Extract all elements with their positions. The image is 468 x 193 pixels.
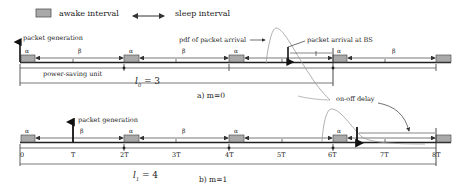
awake-box xyxy=(21,135,35,142)
caption-b: b) m=1 xyxy=(199,176,227,184)
beta-label: β xyxy=(80,128,83,134)
caption-a: a) m=0 xyxy=(197,92,225,100)
tick-label: 3T xyxy=(172,152,180,159)
awake-box xyxy=(229,135,244,142)
arrival-label: packet arrival at BS xyxy=(307,37,373,44)
on-off-delay-label: on-off delay xyxy=(336,96,375,103)
tick-label: 6T xyxy=(328,152,336,159)
beta-label: β xyxy=(182,128,185,134)
tick-label: 5T xyxy=(277,152,285,159)
alpha-label: α xyxy=(25,48,29,54)
awake-box xyxy=(436,135,451,142)
tick-label: 4T xyxy=(225,152,233,159)
length-label-a: l0 = 3 xyxy=(135,77,160,88)
packet-generation-label-b: packet generation xyxy=(78,117,138,124)
beta-label: β xyxy=(182,48,185,54)
power-saving-unit-label: power-saving unit xyxy=(43,71,102,78)
tick-label: T xyxy=(71,152,75,159)
alpha-label: α xyxy=(129,48,133,54)
alpha-label: α xyxy=(234,48,238,54)
awake-legend-label: awake interval xyxy=(59,10,119,18)
power-saving-diagram xyxy=(0,0,468,193)
alpha-label: α xyxy=(337,128,341,134)
awake-box xyxy=(333,135,347,142)
awake-box xyxy=(229,55,244,62)
tick-label: 8T xyxy=(432,152,440,159)
awake-box xyxy=(124,55,139,62)
awake-legend-swatch xyxy=(36,9,51,17)
awake-box xyxy=(333,55,347,62)
awake-box xyxy=(124,135,139,142)
alpha-label: α xyxy=(25,128,29,134)
beta-label: β xyxy=(392,48,395,54)
sleep-legend-label: sleep interval xyxy=(175,10,230,18)
tick-label: 7T xyxy=(380,152,388,159)
packet-generation-label-a: packet generation xyxy=(23,35,83,42)
alpha-label: α xyxy=(234,128,238,134)
beta-label: β xyxy=(78,48,81,54)
tick-label: 2T xyxy=(120,152,128,159)
awake-box xyxy=(436,55,451,62)
tick-label: 0 xyxy=(20,152,24,159)
pdf-label: pdf of packet arrival xyxy=(179,37,246,44)
awake-box xyxy=(21,55,35,62)
alpha-label: α xyxy=(129,128,133,134)
alpha-label: α xyxy=(337,48,341,54)
length-label-b: l1 = 4 xyxy=(133,171,158,182)
